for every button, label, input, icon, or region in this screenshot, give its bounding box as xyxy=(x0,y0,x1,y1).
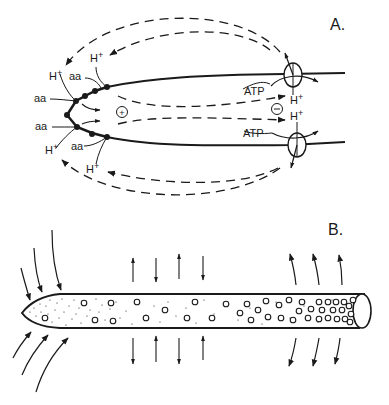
svg-text:aa: aa xyxy=(69,70,82,82)
svg-text:ATP: ATP xyxy=(243,127,264,139)
svg-text:aa: aa xyxy=(35,120,48,132)
svg-text:H+: H+ xyxy=(290,108,303,122)
panel-b-label: B. xyxy=(328,221,343,238)
panel-a-label: A. xyxy=(330,16,345,33)
svg-text:H+: H+ xyxy=(86,161,99,175)
tube-wall-bottom xyxy=(107,137,345,145)
panel-a: A. xyxy=(34,16,345,195)
svg-text:ATP: ATP xyxy=(244,85,265,97)
svg-text:H+: H+ xyxy=(49,68,62,82)
svg-text:aa: aa xyxy=(71,140,84,152)
negative-charge-icon xyxy=(272,104,283,115)
positive-charge-icon: + xyxy=(117,107,128,118)
svg-text:+: + xyxy=(119,108,124,118)
tube-wall-top xyxy=(107,73,345,87)
influx-arrows xyxy=(82,104,100,124)
aa-labels: aa aa aa aa xyxy=(34,70,84,152)
diagram-canvas: A. xyxy=(0,0,389,405)
atp-labels: ATP ATP xyxy=(243,85,265,139)
h-plus-labels: H+ H+ H+ H+ H+ H+ xyxy=(45,50,303,175)
svg-text:H+: H+ xyxy=(45,142,58,156)
leader-lines xyxy=(50,67,272,164)
svg-text:H+: H+ xyxy=(290,92,303,106)
svg-text:aa: aa xyxy=(34,92,47,104)
panel-b: B. xyxy=(13,221,371,392)
svg-text:H+: H+ xyxy=(90,50,103,64)
